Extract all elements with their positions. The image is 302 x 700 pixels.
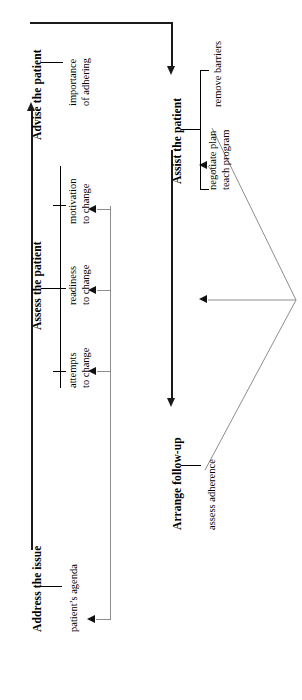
item-readiness-line1: readiness <box>68 266 79 305</box>
bracket-stem-assist <box>181 129 201 130</box>
v-connector-lower <box>205 300 296 470</box>
diagram-canvas: Address the issue patient’s agenda Asses… <box>0 0 302 700</box>
flow-arrowhead-assist <box>167 66 175 75</box>
item-readiness-line2: to change <box>81 264 92 305</box>
item-patient-agenda: patient’s agenda <box>69 564 80 632</box>
stage-label-assist: Assist the patient <box>172 98 184 184</box>
v-arrowhead-negotiate-plan <box>199 295 207 303</box>
stage-label-arrange: Arrange follow-up <box>172 437 184 530</box>
flow-rail-top <box>30 22 172 24</box>
item-assess-adherence: assess adherence <box>207 459 218 530</box>
stage-label-assess: Assess the patient <box>32 241 44 330</box>
item-negotiate-plan-line2: teach program <box>221 130 232 190</box>
item-motivation-line1: motivation <box>68 179 79 225</box>
flow-shaft-assist-to-arrange <box>171 150 173 400</box>
item-negotiate-plan-line1: negotiate plan <box>208 131 219 190</box>
bracket-spine-assess <box>60 166 61 388</box>
bracket-spine-assist <box>200 70 201 190</box>
connector-overlay <box>0 0 302 700</box>
item-remove-barriers: remove barriers <box>213 41 224 107</box>
tick-address <box>40 586 62 587</box>
tick-arrange <box>181 465 201 466</box>
tick-motivation <box>53 205 66 206</box>
item-motivation-line2: to change <box>81 183 92 224</box>
tick-readiness <box>53 288 66 289</box>
flow-shaft-to-assist <box>171 22 173 68</box>
item-importance-line1: importance <box>68 59 79 106</box>
flow-arrowhead-arrange <box>167 398 175 407</box>
item-attempts-line1: attempts <box>68 352 79 388</box>
tick-advise <box>41 62 63 63</box>
item-attempts-line2: to change <box>81 347 92 388</box>
tick-attempts <box>53 371 66 372</box>
bracket-cap-assist-top <box>200 70 209 71</box>
stage-label-address: Address the issue <box>32 546 44 632</box>
flow-shaft-address-to-advise <box>31 110 33 550</box>
item-importance-line2: of adhering <box>81 58 92 106</box>
feedback-arrowhead-agenda <box>87 615 95 623</box>
